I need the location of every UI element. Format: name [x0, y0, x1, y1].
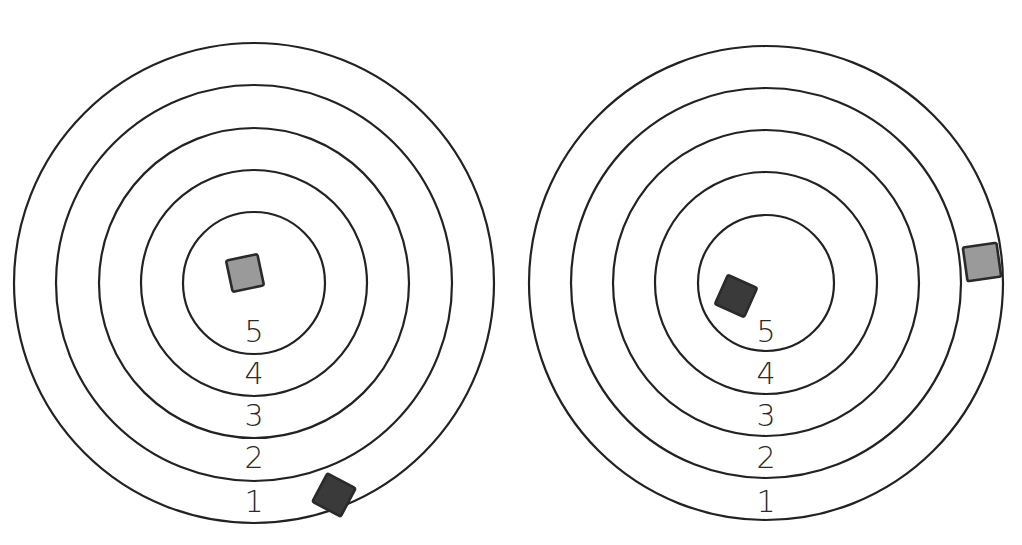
- target-diagram: 12345 12345: [0, 0, 1022, 545]
- ring-score-label: 3: [756, 398, 775, 433]
- ring-score-label: 3: [244, 398, 263, 433]
- ring-score-label: 1: [756, 484, 775, 519]
- right-target: 12345: [529, 46, 1003, 520]
- ring-score-label: 1: [244, 484, 263, 519]
- ring-score-label: 2: [756, 440, 775, 475]
- left-target: 12345: [14, 43, 494, 523]
- light-beanbag-marker: [226, 254, 264, 292]
- light-beanbag-marker: [963, 243, 1001, 281]
- dark-beanbag-marker: [715, 275, 757, 317]
- ring-score-label: 2: [244, 440, 263, 475]
- ring-score-label: 4: [244, 356, 263, 391]
- ring-score-label: 4: [756, 356, 775, 391]
- ring-score-label: 5: [756, 314, 775, 349]
- dark-beanbag-marker: [312, 473, 355, 516]
- ring-score-label: 5: [244, 314, 263, 349]
